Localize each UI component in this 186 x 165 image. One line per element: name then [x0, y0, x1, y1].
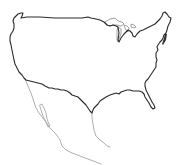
- us-outline-map: [0, 0, 186, 165]
- us-outline: [10, 12, 171, 113]
